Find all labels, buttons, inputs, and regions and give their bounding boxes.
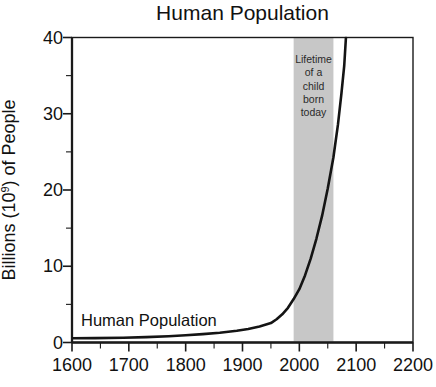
human-population-chart: Human Population Billions (109) of Peopl…	[0, 0, 436, 387]
y-axis-title-pre: Billions (10	[0, 193, 19, 281]
lifetime-band-label-line: Lifetime	[295, 53, 332, 65]
y-tick-label: 10	[43, 256, 63, 276]
x-tick-label: 1800	[166, 355, 206, 375]
lifetime-band-label-line: child	[303, 80, 325, 92]
y-tick-label: 40	[43, 28, 63, 48]
x-tick-label: 2000	[279, 355, 319, 375]
axis-ticks	[63, 38, 413, 352]
x-tick-label: 1700	[109, 355, 149, 375]
y-axis-title: Billions (109) of People	[0, 99, 19, 280]
y-tick-label: 0	[53, 333, 63, 353]
x-tick-label: 2100	[336, 355, 376, 375]
x-tick-label: 1600	[52, 355, 92, 375]
x-tick-label: 1900	[222, 355, 262, 375]
plot-frame	[72, 38, 413, 343]
lifetime-band-label-line: born	[303, 93, 324, 105]
y-axis-title-post: ) of People	[0, 99, 19, 186]
y-tick-label: 20	[43, 180, 63, 200]
series-label: Human Population	[81, 311, 217, 329]
x-tick-label: 2200	[393, 355, 433, 375]
chart-title: Human Population	[156, 1, 329, 24]
y-tick-label: 30	[43, 104, 63, 124]
lifetime-band-label-line: of a	[305, 66, 323, 78]
lifetime-band-label-line: today	[301, 106, 327, 118]
chart-figure: Human Population Billions (109) of Peopl…	[0, 0, 436, 387]
